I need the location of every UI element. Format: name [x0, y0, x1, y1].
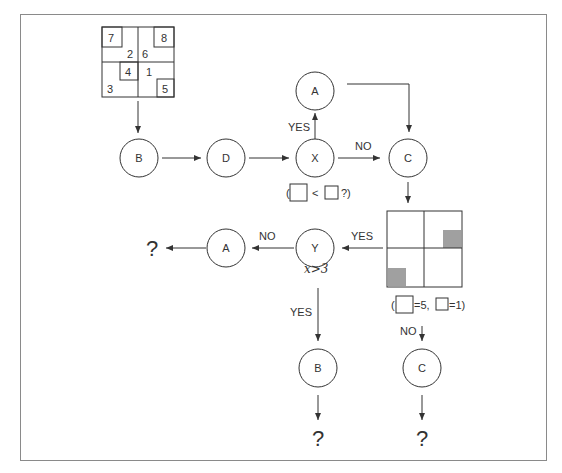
edge-label-no: NO [259, 230, 276, 242]
svg-text:?): ?) [341, 187, 351, 199]
arrows [138, 84, 422, 420]
node-label: Y [311, 242, 319, 254]
grid-number: 8 [161, 32, 167, 44]
edge-label-yes: YES [351, 230, 373, 242]
node-label: A [222, 242, 230, 254]
grid-number: 5 [162, 83, 168, 95]
node-label: B [135, 152, 142, 164]
node-label: D [222, 152, 230, 164]
svg-text:=1): =1) [449, 299, 465, 311]
edge-label-no: NO [400, 325, 417, 337]
grid-number: 3 [107, 83, 113, 95]
node-label: C [404, 152, 412, 164]
grid-number: 1 [146, 66, 152, 78]
svg-text:<: < [312, 187, 318, 199]
node-label: A [311, 85, 319, 97]
svg-text:=5,: =5, [414, 299, 430, 311]
x-condition: ( < ?) [286, 184, 351, 201]
edge-label-no: NO [355, 140, 372, 152]
output-question-b: ? [312, 426, 324, 451]
grid-number: 7 [108, 32, 114, 44]
node-label: B [314, 362, 321, 374]
edge-label-yes: YES [290, 306, 312, 318]
grid-number: 2 [127, 48, 133, 60]
output-question-c: ? [416, 426, 428, 451]
svg-text:(: ( [391, 299, 395, 311]
flowchart: 7 8 2 6 4 1 3 5 B D [0, 0, 562, 473]
svg-text:(: ( [286, 187, 290, 199]
node-label: X [311, 152, 319, 164]
y-condition: x>3 [304, 262, 329, 276]
grid-number: 4 [125, 66, 131, 78]
grid-condition: ( =5, =1) [391, 296, 465, 313]
grid-number: 6 [142, 48, 148, 60]
output-question-left: ? [146, 236, 158, 261]
node-label: C [418, 362, 426, 374]
edge-label-yes: YES [288, 121, 310, 133]
shaded-grid [387, 211, 462, 287]
